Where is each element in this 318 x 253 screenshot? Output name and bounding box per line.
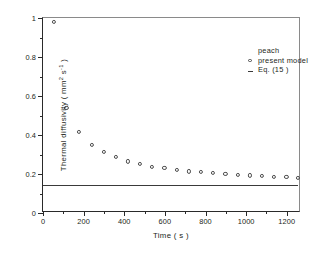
data-point [90,143,94,147]
x-tick-major [287,211,288,216]
x-tick-label: 200 [77,217,90,226]
data-point [187,169,191,173]
legend-entry-present-model: present model [247,56,308,66]
legend-label-eq15: Eq. (15 ) [247,65,289,74]
y-tick-minor [40,38,43,39]
data-point [162,166,166,170]
data-point [199,170,203,174]
x-tick-major [165,211,166,216]
x-tick-minor [266,211,267,214]
y-tick-label: 0.8 [25,53,36,62]
data-point [236,173,240,177]
data-point [248,173,252,177]
y-tick-major [38,174,43,175]
data-point [126,159,130,163]
plot-area: 00.20.40.60.81 020040060080010001200 pea… [42,17,300,212]
x-tick-label: 400 [118,217,131,226]
data-point [260,174,264,178]
reference-line [43,185,298,186]
open-circle-icon [248,59,252,63]
dash-line-icon [248,71,253,72]
y-tick-major [38,135,43,136]
legend-entry-eq15: Eq. (15 ) [247,65,308,75]
x-tick-minor [185,211,186,214]
x-tick-minor [145,211,146,214]
x-tick-major [43,211,44,216]
y-tick-major [38,57,43,58]
x-tick-minor [63,211,64,214]
legend-label-present-model: present model [247,56,308,65]
legend-sample-label: peach [247,46,279,55]
y-tick-label: 0 [32,209,36,218]
data-point [211,171,215,175]
data-point [223,172,227,176]
x-tick-label: 800 [199,217,212,226]
y-tick-major [38,18,43,19]
y-tick-label: 0.4 [25,131,36,140]
y-tick-major [38,96,43,97]
data-point [114,155,118,159]
y-tick-label: 0.6 [25,92,36,101]
y-tick-minor [40,77,43,78]
y-tick-label: 0.2 [25,170,36,179]
data-point [150,164,154,168]
x-tick-major [124,211,125,216]
data-point [52,20,56,24]
x-axis-title: Time ( s ) [42,231,300,240]
data-point [175,168,179,172]
legend-sample-name: peach [247,46,308,56]
y-axis-title-exponent-time: -1 [58,64,64,70]
data-point [138,162,142,166]
y-tick-minor [40,116,43,117]
data-point [272,174,276,178]
data-point [77,130,81,134]
y-tick-label: 1 [32,14,36,23]
data-point [102,150,106,154]
thermal-diffusivity-chart: 00.20.40.60.81 020040060080010001200 pea… [0,0,318,253]
y-axis-title: Thermal diffusivity ( mm2 s-1 ) [58,35,69,195]
x-tick-major [246,211,247,216]
x-tick-major [84,211,85,216]
x-tick-label: 1000 [238,217,255,226]
x-tick-label: 600 [159,217,172,226]
x-tick-minor [104,211,105,214]
data-point [296,176,300,180]
x-tick-label: 0 [41,217,45,226]
y-tick-minor [40,155,43,156]
data-point [284,175,288,179]
x-tick-minor [226,211,227,214]
x-tick-label: 1200 [278,217,295,226]
x-tick-major [206,211,207,216]
chart-legend: peach present model Eq. (15 ) [247,46,308,75]
y-tick-minor [40,194,43,195]
